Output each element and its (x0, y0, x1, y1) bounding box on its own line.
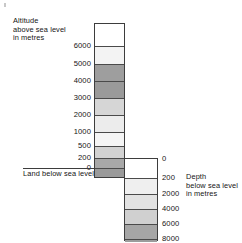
altitude-band-200-0 (95, 159, 124, 169)
altitude-tick-5000: 5000 (38, 60, 94, 68)
depth-band-2000-4000 (125, 195, 157, 210)
depth-band-6000-8000 (125, 225, 157, 240)
altitude-tick-1000: 1000 (38, 128, 94, 136)
depth-zero-line (125, 158, 158, 159)
altitude-band-4000-3000 (95, 82, 124, 99)
altitude-tick-500: 500 (38, 142, 94, 150)
altitude-band-2000-1000 (95, 116, 124, 133)
altitude-band-below-sea-level (95, 169, 124, 177)
depth-tick-6000: 6000 (160, 220, 179, 228)
depth-tick-2000: 2000 (160, 190, 179, 198)
depth-tick-200: 200 (160, 174, 175, 182)
depth-band-below-8000 (125, 240, 157, 242)
depth-caption: Depth below sea level in metres (186, 173, 238, 199)
altitude-band-3000-2000 (95, 99, 124, 116)
depth-band-0-200 (125, 159, 157, 179)
altitude-tick-6000: 6000 (38, 42, 94, 50)
altitude-band-6000-5000 (95, 47, 124, 65)
depth-column (124, 158, 158, 241)
altitude-tick-axis: 6000 5000 4000 3000 2000 1000 500 200 0 (38, 23, 94, 178)
altitude-column (94, 23, 125, 178)
depth-band-4000-6000 (125, 210, 157, 225)
altitude-band-500-200 (95, 147, 124, 159)
altitude-tick-4000: 4000 (38, 77, 94, 85)
altitude-band-above-6000 (95, 24, 124, 47)
depth-tick-axis: 0 200 2000 4000 6000 8000 (160, 158, 200, 241)
corner-artifact-mark (4, 3, 6, 7)
depth-caption-line-3: in metres (186, 190, 238, 199)
depth-tick-4000: 4000 (160, 205, 179, 213)
altitude-band-1000-500 (95, 133, 124, 147)
depth-tick-8000: 8000 (160, 235, 179, 243)
altitude-band-5000-4000 (95, 65, 124, 82)
altitude-tick-3000: 3000 (38, 94, 94, 102)
depth-tick-0: 0 (160, 155, 166, 163)
depth-band-200-2000 (125, 179, 157, 195)
altitude-tick-2000: 2000 (38, 111, 94, 119)
land-below-sea-level-label: Land below sea level (23, 170, 94, 179)
altitude-tick-200: 200 (38, 154, 94, 162)
